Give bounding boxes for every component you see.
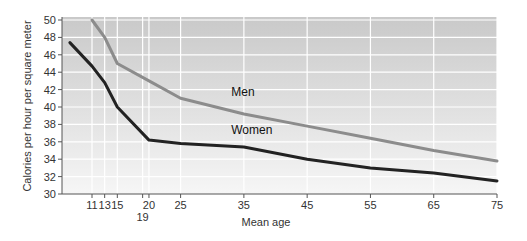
series-label-women: Women xyxy=(231,123,272,137)
y-tick-label: 50 xyxy=(44,14,56,26)
y-tick-label: 44 xyxy=(44,66,56,78)
x-tick-label: 75 xyxy=(491,199,503,211)
y-tick-label: 38 xyxy=(44,118,56,130)
y-tick-label: 48 xyxy=(44,31,56,43)
x-tick-label: 19 xyxy=(137,211,149,223)
y-axis-title: Calories per hour per square meter xyxy=(21,20,33,192)
x-tick-label: 45 xyxy=(301,199,313,211)
y-tick-label: 36 xyxy=(44,136,56,148)
y-tick-label: 34 xyxy=(44,153,56,165)
x-tick-label: 11 xyxy=(86,199,97,211)
line-chart: 3032343638404244464850 11131519202535455… xyxy=(0,0,527,241)
x-tick-label: 15 xyxy=(111,199,123,211)
plot-area xyxy=(62,17,497,194)
y-axis-ticks: 3032343638404244464850 xyxy=(44,14,62,200)
x-tick-label: 13 xyxy=(99,199,111,211)
x-tick-label: 20 xyxy=(143,199,155,211)
y-tick-label: 40 xyxy=(44,101,56,113)
x-tick-label: 35 xyxy=(238,199,250,211)
x-tick-label: 55 xyxy=(364,199,376,211)
y-tick-label: 32 xyxy=(44,171,56,183)
x-tick-label: 65 xyxy=(428,199,440,211)
y-tick-label: 46 xyxy=(44,49,56,61)
x-axis-ticks: 1113151920253545556575 xyxy=(86,194,503,223)
x-axis-title: Mean age xyxy=(242,216,291,228)
y-tick-label: 42 xyxy=(44,84,56,96)
y-tick-label: 30 xyxy=(44,188,56,200)
x-tick-label: 25 xyxy=(174,199,186,211)
series-label-men: Men xyxy=(231,85,254,99)
